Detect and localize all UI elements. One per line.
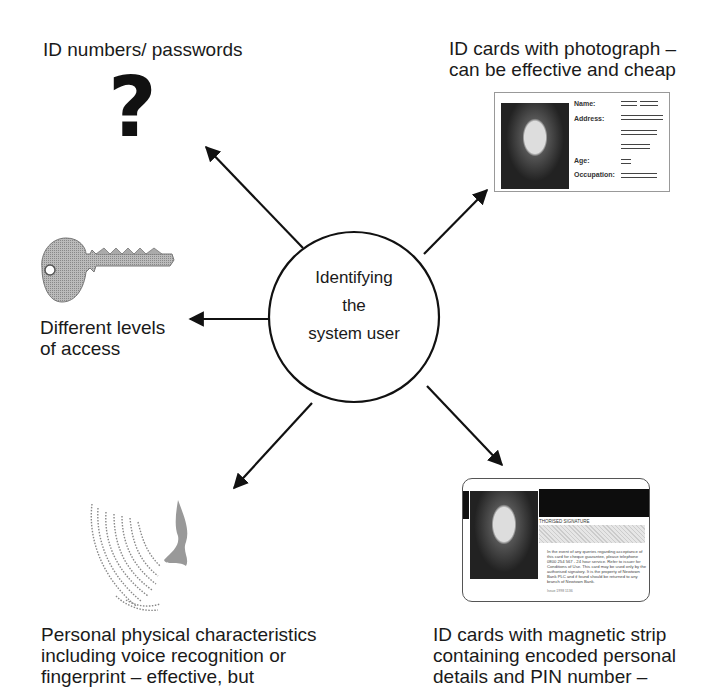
magnetic-strip [539,489,649,517]
magnetic-card-line-2: containing encoded personal [433,645,676,666]
arrow-to-magnetic-card [427,386,502,465]
photo-id-card-image: Name: Address: Age: Occupation: [494,92,670,192]
center-line-3: system user [270,320,438,348]
card-line [621,173,657,178]
magnetic-card-line-1: ID cards with magnetic strip [433,624,676,645]
magnetic-card-line-3: details and PIN number – [433,666,676,687]
fingerprint-icon [86,496,202,616]
card-photo-portrait [470,491,538,579]
card-small-print: In the event of any queries regarding ac… [547,549,647,584]
id-photo-portrait [501,103,569,189]
id-numbers-label: ID numbers/ passwords [43,39,243,60]
card-line [621,144,650,149]
physical-characteristics-label: Personal physical characteristics includ… [41,624,317,687]
access-levels-label: Different levels of access [40,317,165,359]
card-field-address: Address: [574,115,604,122]
magnetic-card-image: THORISED SIGNATURE In the event of any q… [462,478,650,602]
card-line [621,130,657,135]
arrow-to-id-numbers [206,147,303,248]
center-line-2: the [270,292,438,320]
signature-panel [539,525,645,543]
signature-label: THORISED SIGNATURE [539,519,589,524]
photo-id-label-line-1: ID cards with photograph – [449,38,676,59]
card-line [621,115,663,120]
magnetic-card-label: ID cards with magnetic strip containing … [433,624,676,687]
arrow-to-physical-characteristics [234,403,312,488]
key-icon [36,234,176,304]
photo-id-label-line-2: can be effective and cheap [449,59,676,80]
physical-characteristics-line-3: fingerprint – effective, but [41,666,317,687]
card-footer: Issue 1998 1136 [547,589,573,593]
center-node-label: Identifying the system user [270,264,438,348]
card-field-age: Age: [574,157,590,164]
card-line [621,159,631,164]
question-mark-icon: ? [108,62,157,152]
physical-characteristics-line-1: Personal physical characteristics [41,624,317,645]
card-line [621,101,637,106]
physical-characteristics-line-2: including voice recognition or [41,645,317,666]
card-line [640,101,658,106]
card-field-occupation: Occupation: [574,171,615,178]
card-field-name: Name: [574,100,595,107]
photo-id-label: ID cards with photograph – can be effect… [449,38,676,80]
card-edge-mark [463,491,469,519]
arrow-to-photo-id [424,190,487,254]
center-line-1: Identifying [270,264,438,292]
access-levels-line-2: of access [40,338,165,359]
access-levels-line-1: Different levels [40,317,165,338]
